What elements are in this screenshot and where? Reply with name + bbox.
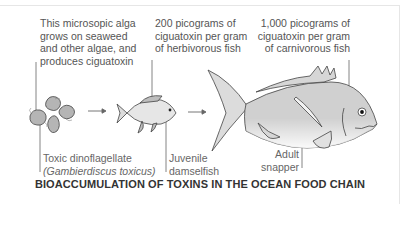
damselfish-icon <box>117 96 176 133</box>
snapper-label: Adult snapper <box>261 148 299 173</box>
damselfish-label-line: Juvenile <box>169 152 219 165</box>
snapper-icon <box>208 66 377 151</box>
damselfish-label: Juvenile damselfish <box>169 152 219 177</box>
snapper-label-line: snapper <box>261 161 299 174</box>
dinoflagellate-species-name: (Gambierdiscus toxicus) <box>43 165 156 178</box>
damselfish-label-line: damselfish <box>169 165 219 178</box>
diagram-caption: BIOACCUMULATION OF TOXINS IN THE OCEAN F… <box>0 178 400 190</box>
snapper-label-line: Adult <box>261 148 299 161</box>
dinoflagellate-label: Toxic dinoflagellate (Gambierdiscus toxi… <box>43 152 156 177</box>
dinoflagellate-label-name: Toxic dinoflagellate <box>43 152 156 165</box>
